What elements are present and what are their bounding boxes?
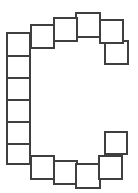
square-s16 <box>30 24 55 49</box>
diagram-canvas <box>0 0 138 193</box>
square-s03 <box>6 77 31 101</box>
square-s13 <box>99 19 124 44</box>
square-s06 <box>6 143 31 165</box>
square-s11 <box>104 131 128 155</box>
square-s01 <box>6 32 31 57</box>
square-s07 <box>30 155 55 180</box>
square-s15 <box>53 17 78 42</box>
square-s04 <box>6 99 31 123</box>
square-s14 <box>75 12 101 38</box>
square-s05 <box>6 121 31 145</box>
square-s02 <box>6 55 31 79</box>
square-s10 <box>98 155 123 180</box>
